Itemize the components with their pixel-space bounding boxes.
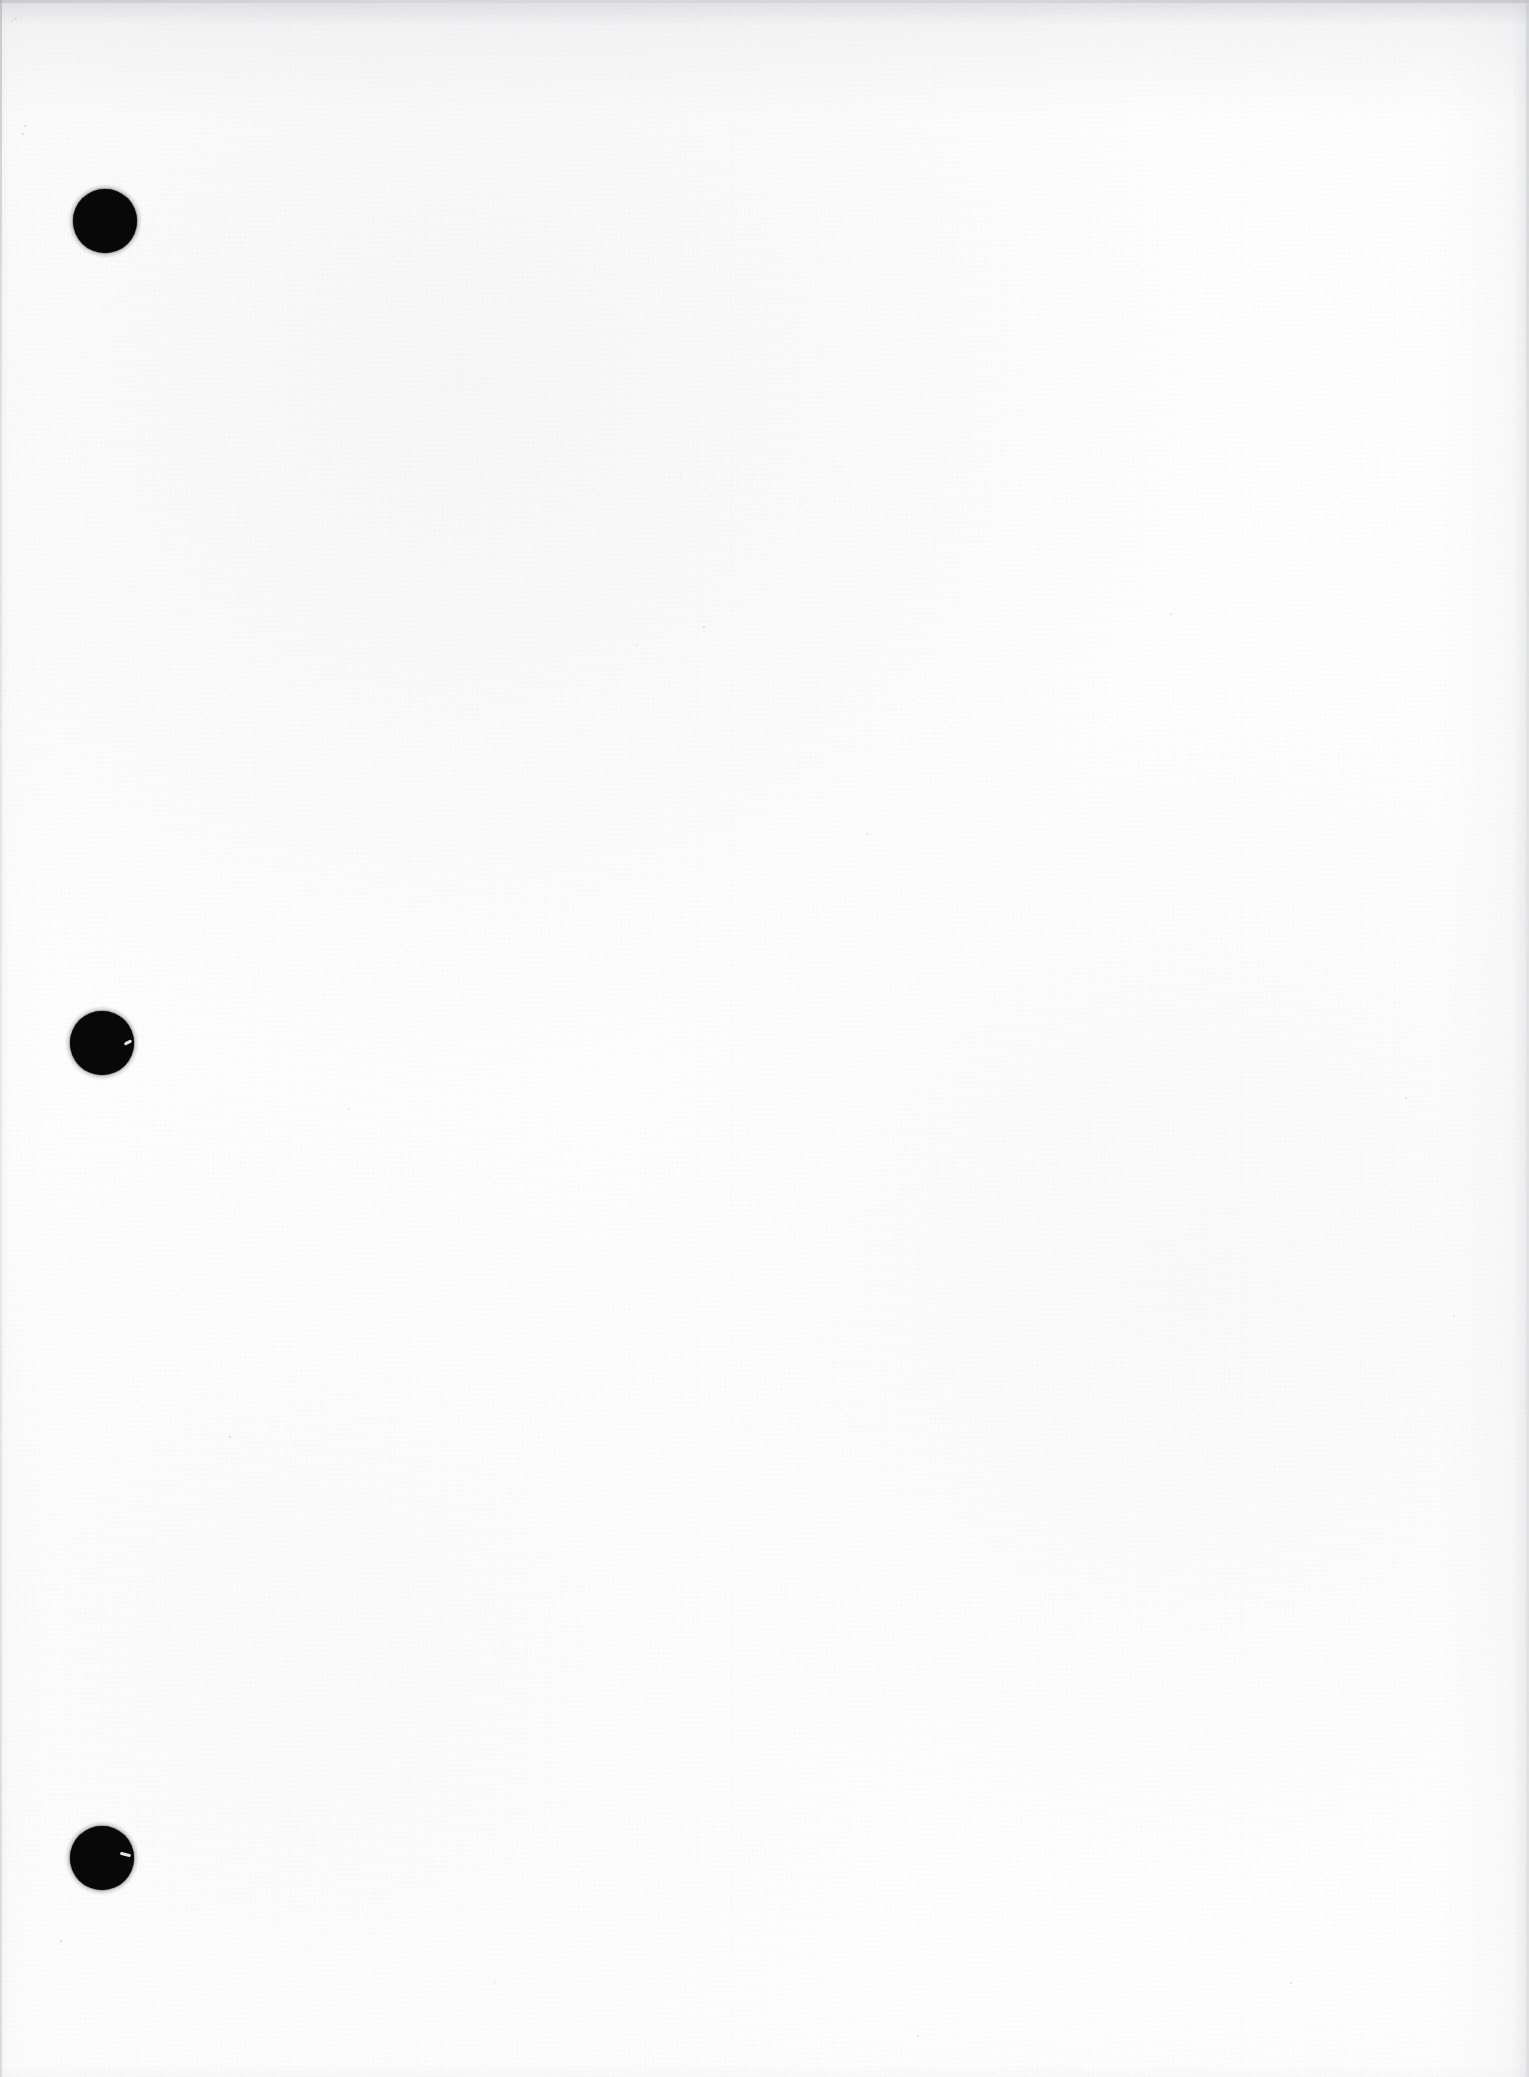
scanner-speck xyxy=(1170,613,1172,615)
punch-hole-top xyxy=(73,189,137,253)
scanner-speck xyxy=(348,1108,350,1110)
scanner-speck xyxy=(703,626,705,628)
scanner-speck xyxy=(11,20,13,22)
scanner-speck xyxy=(494,1981,496,1983)
scanner-speck xyxy=(917,2035,919,2037)
paper-background xyxy=(0,0,1529,2077)
scanner-speck xyxy=(866,833,868,835)
punch-hole-tear-nick xyxy=(124,1039,132,1045)
scanner-speck xyxy=(1405,1097,1407,1099)
scan-edge-shading xyxy=(0,0,1529,2077)
paper-grain-texture xyxy=(0,0,1529,2077)
scanned-page: Blank scanned page with three black bind… xyxy=(0,0,1529,2077)
scanner-streak-texture xyxy=(0,0,1529,2077)
scanner-speck xyxy=(14,17,17,20)
scanner-speck xyxy=(229,1436,231,1438)
scanner-speck xyxy=(1453,1315,1455,1317)
punch-hole-middle xyxy=(70,1011,134,1075)
page-edge-left xyxy=(0,0,2,2077)
scanner-speck xyxy=(22,133,24,135)
scanner-speck xyxy=(1290,1982,1292,1984)
punch-hole-bottom xyxy=(70,1826,134,1890)
scanner-speck xyxy=(24,125,26,127)
scanner-speck-layer xyxy=(0,0,1529,2077)
scanner-speck xyxy=(636,644,638,646)
punch-hole-tear-nick xyxy=(120,1852,131,1858)
scanner-speck xyxy=(60,1940,62,1942)
page-edge-top xyxy=(0,0,1529,3)
